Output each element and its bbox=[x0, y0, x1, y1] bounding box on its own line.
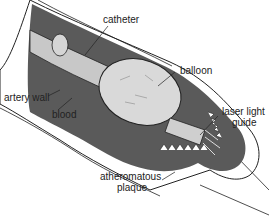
label-artery-wall: artery wall bbox=[4, 92, 50, 103]
label-laser-light-guide-2: guide bbox=[232, 117, 257, 128]
label-balloon: balloon bbox=[180, 65, 212, 76]
label-laser-light-guide-1: laser light bbox=[222, 106, 265, 117]
label-plaque-1: atheromatous bbox=[100, 171, 161, 182]
label-catheter: catheter bbox=[103, 14, 140, 25]
label-blood: blood bbox=[52, 109, 76, 120]
angioplasty-diagram: catheter balloon artery wall blood laser… bbox=[0, 0, 269, 222]
label-plaque-2: plaque bbox=[117, 182, 147, 193]
